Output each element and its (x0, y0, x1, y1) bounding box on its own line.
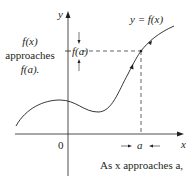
left-annotation-line2: approaches (0, 48, 60, 62)
y-axis-arrow-icon (66, 11, 71, 18)
limit-point (140, 50, 143, 53)
y-axis-label: y (58, 8, 63, 20)
limit-diagram (0, 0, 194, 178)
left-annotation-line1: f(x) (0, 34, 60, 48)
curve-arrow-lower-icon (130, 64, 134, 70)
curve-label: y = f(x) (130, 13, 163, 25)
left-annotation: f(x) approaches f(a). (0, 34, 60, 76)
x-axis-label: x (181, 138, 186, 150)
a-tick-label: a (137, 139, 143, 151)
left-annotation-line3: f(a). (0, 62, 60, 76)
bottom-annotation: As x approaches a, (100, 159, 183, 171)
left-arrow-icon (149, 145, 153, 148)
down-arrow-icon (78, 40, 81, 44)
origin-label: 0 (58, 139, 64, 151)
up-arrow-icon (78, 59, 81, 63)
fa-tick-label: f(a) (72, 45, 88, 57)
x-axis-arrow-icon (177, 132, 184, 137)
right-arrow-icon (128, 145, 132, 148)
